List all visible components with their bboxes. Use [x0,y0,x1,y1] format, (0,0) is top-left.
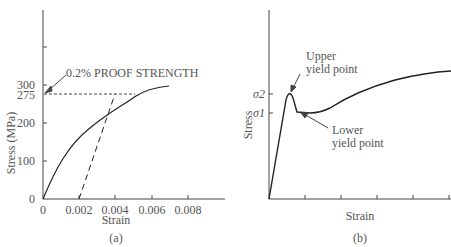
lower-yield-label-1: Lower [332,123,363,137]
chart-a-labels: 300 275 200 100 0 0 0.002 0.004 0.006 0.… [4,66,202,245]
upper-yield-label-1: Upper [306,49,336,63]
caption-a: (a) [109,231,122,245]
figure: 300 275 200 100 0 0 0.002 0.004 0.006 0.… [0,0,451,247]
arrowhead-icon [291,85,296,92]
stress-strain-curve-a [43,86,169,199]
x-axis-label-b: Strain [346,209,375,223]
y-tick-275: 275 [17,88,35,102]
lower-yield-arrow [304,114,328,128]
lower-yield-label-2: yield point [332,136,384,150]
upper-yield-label-2: yield point [306,62,358,76]
proof-strength-annotation: 0.2% PROOF STRENGTH [66,66,199,80]
x-tick-0: 0 [40,203,46,217]
x-axis-label-a: Strain [102,213,131,227]
y-axis-label-a: Stress (MPa) [4,112,18,174]
chart-b-labels: σ2 σ1 Upper yield point Lower yield poin… [241,49,384,245]
x-tick-0.002: 0.002 [66,203,93,217]
offset-dashed-line [79,94,115,199]
chart-b [269,10,451,199]
arrowhead-icon [301,113,308,118]
y-tick-100: 100 [17,154,35,168]
y-axis-label-b: Stress [241,110,255,139]
chart-a [43,10,225,199]
y-tick-200: 200 [17,116,35,130]
arrowhead-icon [45,86,52,93]
caption-b: (b) [353,231,367,245]
x-tick-0.006: 0.006 [139,203,166,217]
sigma2-label: σ2 [253,87,265,101]
y-tick-0: 0 [29,192,35,206]
x-tick-0.008: 0.008 [175,203,202,217]
